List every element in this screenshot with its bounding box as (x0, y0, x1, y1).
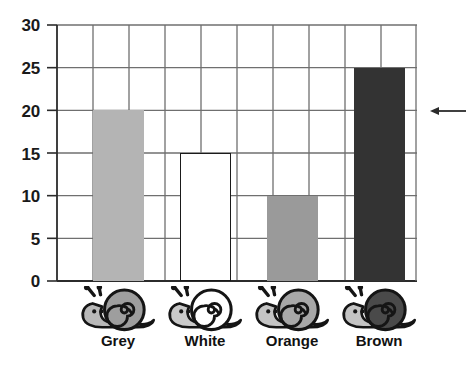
snail-icon (252, 286, 332, 332)
bar-chart: 30 25 20 15 10 5 0 (0, 0, 468, 370)
snail-icon (78, 286, 158, 332)
category-label-orange: Orange (252, 333, 332, 348)
category-label-white: White (165, 333, 245, 348)
category-brown[interactable]: Brown (339, 286, 419, 348)
category-axis: Grey White (0, 0, 468, 370)
category-white[interactable]: White (165, 286, 245, 348)
category-label-grey: Grey (78, 333, 158, 348)
snail-icon (165, 286, 245, 332)
category-orange[interactable]: Orange (252, 286, 332, 348)
category-label-brown: Brown (339, 333, 419, 348)
category-grey[interactable]: Grey (78, 286, 158, 348)
snail-icon (339, 286, 419, 332)
